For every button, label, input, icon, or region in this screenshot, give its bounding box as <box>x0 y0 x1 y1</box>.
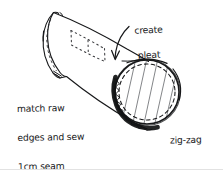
annotation-match-seam-line1: match raw <box>17 102 65 114</box>
annotation-match-seam-line2: edges and sew <box>17 130 84 142</box>
pleat-arrow <box>112 27 129 60</box>
annotation-zigzag-line2: all the way <box>154 173 205 176</box>
footer-divider <box>0 169 223 170</box>
seam-allowance-flap <box>43 12 66 78</box>
annotation-match-seam: match raw edges and sew 1cm seam <box>11 86 85 174</box>
annotation-create-pleat-line2: pleat <box>130 48 164 62</box>
annotation-create-pleat: create pleat <box>128 11 165 75</box>
annotation-create-pleat-line1: create <box>134 23 163 35</box>
pleat-guide-dots <box>71 31 105 62</box>
annotation-zigzag-line1: zig-zag <box>153 133 204 148</box>
annotation-zigzag: zig-zag all the way around to neaten <box>152 106 207 176</box>
